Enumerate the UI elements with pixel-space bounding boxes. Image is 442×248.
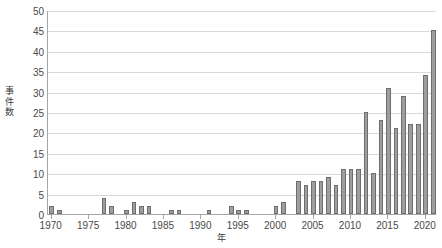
bar [334, 185, 339, 214]
bars-layer [48, 11, 436, 214]
bar [124, 210, 129, 214]
x-axis-tick-mark [387, 215, 388, 219]
x-axis-tick-mark [238, 215, 239, 219]
bar [296, 181, 301, 214]
y-axis-tick-label: 40 [18, 46, 44, 57]
x-axis-tick-mark [275, 215, 276, 219]
x-axis-title: 年 [0, 231, 442, 244]
x-axis-tick-label: 1970 [40, 220, 62, 231]
bar [311, 181, 316, 214]
bar [319, 181, 324, 214]
bar [236, 210, 241, 214]
bar [169, 210, 174, 214]
bar [132, 202, 137, 214]
x-axis-tick-label: 2010 [339, 220, 361, 231]
bar [431, 30, 436, 214]
bar [139, 206, 144, 214]
x-axis-tick-mark [51, 215, 52, 219]
bar [349, 169, 354, 214]
x-axis-tick-label: 1990 [189, 220, 211, 231]
x-axis-tick-label: 2015 [376, 220, 398, 231]
bar [49, 206, 54, 214]
x-axis-tick-mark [350, 215, 351, 219]
x-axis-tick-label: 1985 [152, 220, 174, 231]
y-axis-tick-label: 30 [18, 87, 44, 98]
y-axis-tick-label: 45 [18, 26, 44, 37]
x-axis-tick-label: 1975 [77, 220, 99, 231]
x-axis-tick-mark [313, 215, 314, 219]
x-axis-tick-label: 1980 [114, 220, 136, 231]
bar-chart: 事 件 数 05101520253035404550 1970197519801… [0, 0, 442, 248]
bar [177, 210, 182, 214]
y-axis-tick-label: 15 [18, 148, 44, 159]
x-axis-tick-label: 2020 [414, 220, 436, 231]
bar [326, 177, 331, 214]
y-axis-tick-label: 10 [18, 169, 44, 180]
y-axis-tick-label: 50 [18, 6, 44, 17]
bar [416, 124, 421, 214]
bar [408, 124, 413, 214]
bar [281, 202, 286, 214]
x-axis-tick-mark [88, 215, 89, 219]
bar [423, 75, 428, 214]
y-axis-tick-labels: 05101520253035404550 [18, 0, 44, 248]
y-axis-tick-label: 25 [18, 108, 44, 119]
bar [109, 206, 114, 214]
bar [401, 96, 406, 214]
x-axis-tick-label: 2005 [301, 220, 323, 231]
y-axis-tick-label: 35 [18, 67, 44, 78]
bar [394, 128, 399, 214]
bar [364, 112, 369, 214]
bar [379, 120, 384, 214]
bar [304, 185, 309, 214]
x-axis-tick-mark [425, 215, 426, 219]
x-axis-tick-label: 1995 [227, 220, 249, 231]
bar [386, 88, 391, 214]
bar [229, 206, 234, 214]
y-axis-tick-label: 20 [18, 128, 44, 139]
plot-area [47, 11, 436, 215]
x-axis-tick-label: 2000 [264, 220, 286, 231]
bar [207, 210, 212, 214]
bar [356, 169, 361, 214]
x-axis-tick-mark [126, 215, 127, 219]
y-axis-tick-label: 0 [18, 210, 44, 221]
x-axis-tick-mark [200, 215, 201, 219]
bar [147, 206, 152, 214]
bar [244, 210, 249, 214]
y-axis-tick-label: 5 [18, 189, 44, 200]
bar [274, 206, 279, 214]
bar [57, 210, 62, 214]
x-axis-tick-mark [163, 215, 164, 219]
bar [371, 173, 376, 214]
y-axis-title: 事 件 数 [2, 86, 16, 118]
bar [341, 169, 346, 214]
bar [102, 198, 107, 214]
